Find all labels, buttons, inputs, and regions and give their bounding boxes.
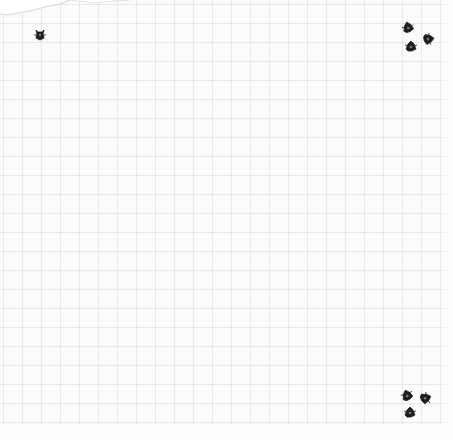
paper-edge-fade <box>439 0 453 425</box>
grid-paper <box>0 0 453 425</box>
torn-corner <box>0 0 453 30</box>
bug-icon <box>422 32 436 46</box>
paper-bottom-margin <box>0 425 453 440</box>
bug-icon <box>405 40 417 52</box>
bug-icon <box>34 29 46 41</box>
bug-icon <box>404 406 416 418</box>
